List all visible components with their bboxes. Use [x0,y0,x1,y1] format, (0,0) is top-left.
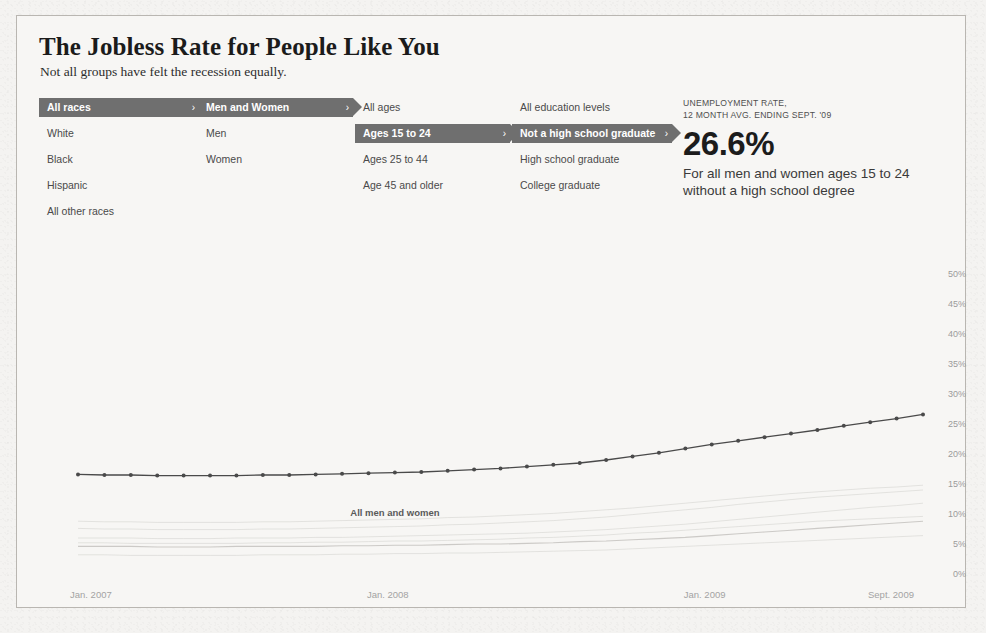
chart-data-point[interactable] [895,417,899,421]
filter-option-gender-2[interactable]: Women [198,150,353,169]
y-axis-tick-label: 0% [953,569,966,579]
chevron-right-icon: › [346,98,349,117]
chart-data-point[interactable] [129,473,133,477]
y-axis-tick-label: 5% [953,539,966,549]
filter-option-race-4[interactable]: All other races [39,202,199,221]
filter-option-race-2[interactable]: Black [39,150,199,169]
filter-option-race-0[interactable]: All races› [39,98,199,117]
filter-option-label: Black [47,153,73,165]
stat-description: For all men and women ages 15 to 24 with… [683,165,958,199]
chart-data-point[interactable] [763,435,767,439]
chart-data-point[interactable] [789,432,793,436]
filter-column-education: All education levelsNot a high school gr… [512,98,672,202]
stat-kicker-line2: 12 MONTH AVG. ENDING SEPT. '09 [683,110,958,122]
chart-data-point[interactable] [921,412,925,416]
y-axis-tick-label: 15% [948,479,966,489]
filter-option-label: All other races [47,205,114,217]
filter-option-education-2[interactable]: High school graduate [512,150,672,169]
chart-data-point[interactable] [366,471,370,475]
chevron-right-icon: › [665,124,668,143]
chart-data-point[interactable] [631,454,635,458]
filter-option-age-0[interactable]: All ages [355,98,510,117]
filter-option-label: Ages 25 to 44 [363,153,428,165]
chart-data-point[interactable] [710,442,714,446]
chevron-right-icon: › [503,124,506,143]
y-axis-tick-label: 30% [948,389,966,399]
chart-data-point[interactable] [393,471,397,475]
filter-option-label: All races [47,101,91,113]
stat-kicker-line1: UNEMPLOYMENT RATE, [683,98,958,110]
chart-data-point[interactable] [314,472,318,476]
filter-option-label: White [47,127,74,139]
filter-option-age-2[interactable]: Ages 25 to 44 [355,150,510,169]
chart-data-point[interactable] [683,447,687,451]
page-title: The Jobless Rate for People Like You [39,33,440,61]
filter-option-education-1[interactable]: Not a high school graduate› [512,124,672,143]
scanned-page: The Jobless Rate for People Like You Not… [0,0,986,633]
chart-data-point[interactable] [261,473,265,477]
chart-data-point[interactable] [102,473,106,477]
filter-option-label: Men and Women [206,101,289,113]
y-axis-tick-label: 35% [948,359,966,369]
chart-data-point[interactable] [657,451,661,455]
filter-column-race: All races›WhiteBlackHispanicAll other ra… [39,98,199,228]
line-chart: 0%5%10%15%20%25%30%35%40%45%50%All men a… [33,226,983,624]
chart-data-point[interactable] [446,469,450,473]
chart-data-point[interactable] [842,424,846,428]
x-axis-tick-label: Jan. 2009 [684,589,726,600]
filter-option-label: All education levels [520,101,610,113]
chart-series-background [78,503,923,538]
stat-readout: UNEMPLOYMENT RATE, 12 MONTH AVG. ENDING … [683,98,958,199]
stat-value: 26.6% [683,125,958,163]
chart-canvas: 0%5%10%15%20%25%30%35%40%45%50%All men a… [33,226,983,624]
filter-option-age-3[interactable]: Age 45 and older [355,176,510,195]
chart-data-point[interactable] [736,439,740,443]
y-axis-tick-label: 50% [948,269,966,279]
filter-column-gender: Men and Women›MenWomen [198,98,353,176]
stat-description-line2: without a high school degree [683,182,958,199]
filter-option-label: High school graduate [520,153,619,165]
filter-option-race-1[interactable]: White [39,124,199,143]
chart-data-point[interactable] [499,466,503,470]
filter-option-label: All ages [363,101,400,113]
chart-series-background [78,485,923,522]
filter-option-gender-1[interactable]: Men [198,124,353,143]
chart-series-background [78,490,923,530]
chart-data-point[interactable] [419,470,423,474]
filter-option-label: College graduate [520,179,600,191]
chart-data-point[interactable] [155,474,159,478]
chart-data-point[interactable] [578,461,582,465]
chart-data-point[interactable] [340,472,344,476]
chart-data-point[interactable] [525,465,529,469]
y-axis-tick-label: 25% [948,419,966,429]
filter-option-gender-0[interactable]: Men and Women› [198,98,353,117]
filter-option-education-3[interactable]: College graduate [512,176,672,195]
filter-option-age-1[interactable]: Ages 15 to 24› [355,124,510,143]
x-axis-tick-label: Sept. 2009 [868,589,914,600]
stat-kicker: UNEMPLOYMENT RATE, 12 MONTH AVG. ENDING … [683,98,958,121]
filter-option-label: Not a high school graduate [520,127,655,139]
y-axis-tick-label: 10% [948,509,966,519]
stat-description-line1: For all men and women ages 15 to 24 [683,165,958,182]
filter-option-label: Men [206,127,226,139]
chart-data-point[interactable] [182,474,186,478]
chart-data-point[interactable] [234,474,238,478]
page-subtitle: Not all groups have felt the recession e… [40,64,287,80]
chart-data-point[interactable] [604,458,608,462]
infographic-frame: The Jobless Rate for People Like You Not… [16,15,966,608]
chart-data-point[interactable] [815,428,819,432]
filter-option-race-3[interactable]: Hispanic [39,176,199,195]
y-axis-tick-label: 20% [948,449,966,459]
filter-option-label: Women [206,153,242,165]
filter-option-label: Ages 15 to 24 [363,127,431,139]
chart-data-point[interactable] [472,468,476,472]
chart-data-point[interactable] [551,463,555,467]
chart-data-point[interactable] [868,420,872,424]
chart-data-point[interactable] [208,474,212,478]
filter-option-label: Hispanic [47,179,87,191]
chart-data-point[interactable] [287,473,291,477]
filter-option-education-0[interactable]: All education levels [512,98,672,117]
chart-data-point[interactable] [76,472,80,476]
y-axis-tick-label: 45% [948,299,966,309]
series-annotation-label: All men and women [350,507,439,518]
